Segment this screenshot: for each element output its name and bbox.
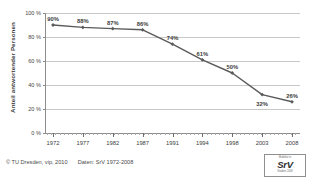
plot-area: 0 %20 %40 %60 %80 %100 % 197219771982198… xyxy=(45,13,300,133)
x-tick-minor xyxy=(76,133,77,135)
x-tick-minor xyxy=(89,133,90,135)
x-tick-minor xyxy=(72,133,73,135)
x-tick-label: 1994 xyxy=(196,140,209,146)
x-tick-minor xyxy=(118,133,119,135)
srv-logo: Mobilität in SrV Städten 2008 xyxy=(264,154,306,177)
x-tick-minor xyxy=(244,133,245,135)
x-tick-minor xyxy=(102,133,103,135)
x-tick-minor xyxy=(253,133,254,135)
x-tick-minor xyxy=(186,133,187,135)
x-tick-minor xyxy=(181,133,182,135)
y-tick-label: 20 % xyxy=(28,106,41,112)
x-tick-major xyxy=(173,133,174,137)
x-tick-label: 1987 xyxy=(136,140,149,146)
x-tick-minor xyxy=(93,133,94,135)
x-tick-minor xyxy=(223,133,224,135)
x-tick-minor xyxy=(81,133,82,135)
data-point-label: 32% xyxy=(256,101,268,107)
x-tick-minor xyxy=(257,133,258,135)
x-tick-minor xyxy=(144,133,145,135)
x-tick-major xyxy=(262,133,263,137)
data-point-marker xyxy=(290,100,294,104)
x-tick-minor xyxy=(278,133,279,135)
x-tick-minor xyxy=(286,133,287,135)
x-tick-minor xyxy=(177,133,178,135)
data-series-line xyxy=(45,13,300,133)
x-tick-label: 2008 xyxy=(286,140,299,146)
data-point-label: 88% xyxy=(77,18,89,24)
footer-note: © TU Dresden, vip, 2010 Daten: SrV 1972-… xyxy=(6,159,133,165)
data-point-label: 87% xyxy=(107,20,119,26)
data-point-marker xyxy=(81,26,85,30)
x-tick-minor xyxy=(274,133,275,135)
x-tick-label: 1991 xyxy=(166,140,179,146)
x-tick-minor xyxy=(194,133,195,135)
x-tick-minor xyxy=(135,133,136,135)
srv-logo-main-text: SrV xyxy=(265,160,305,170)
x-tick-minor xyxy=(123,133,124,135)
y-tick-label: 100 % xyxy=(25,10,41,16)
x-tick-label: 1977 xyxy=(76,140,89,146)
y-tick-label: 0 % xyxy=(31,130,41,136)
y-tick-label: 40 % xyxy=(28,82,41,88)
x-tick-minor xyxy=(282,133,283,135)
data-point-label: 61% xyxy=(197,51,209,57)
footer-source: Daten: SrV 1972-2008 xyxy=(78,159,134,165)
x-tick-minor xyxy=(114,133,115,135)
data-point-label: 74% xyxy=(167,35,179,41)
x-tick-minor xyxy=(219,133,220,135)
y-tick-label: 60 % xyxy=(28,58,41,64)
x-tick-minor xyxy=(47,133,48,135)
data-point-label: 50% xyxy=(226,64,238,70)
x-tick-minor xyxy=(156,133,157,135)
chart-figure: Anteil antwortender Personen 0 %20 %40 %… xyxy=(0,0,310,179)
x-tick-minor xyxy=(198,133,199,135)
x-tick-label: 2003 xyxy=(256,140,269,146)
footer-copyright: © TU Dresden, vip, 2010 xyxy=(6,159,68,165)
x-tick-minor xyxy=(85,133,86,135)
x-tick-major xyxy=(292,133,293,137)
x-tick-minor xyxy=(240,133,241,135)
x-tick-label: 1982 xyxy=(106,140,119,146)
x-tick-major xyxy=(53,133,54,137)
y-tick-label: 80 % xyxy=(28,34,41,40)
x-tick-minor xyxy=(106,133,107,135)
x-tick-minor xyxy=(160,133,161,135)
x-tick-minor xyxy=(165,133,166,135)
y-tick-mark xyxy=(43,133,46,134)
x-tick-major xyxy=(232,133,233,137)
x-tick-minor xyxy=(64,133,65,135)
x-tick-minor xyxy=(97,133,98,135)
data-point-marker xyxy=(111,27,115,31)
x-tick-minor xyxy=(148,133,149,135)
x-tick-minor xyxy=(139,133,140,135)
x-tick-minor xyxy=(249,133,250,135)
x-tick-minor xyxy=(110,133,111,135)
x-tick-minor xyxy=(228,133,229,135)
x-tick-minor xyxy=(190,133,191,135)
x-tick-minor xyxy=(127,133,128,135)
y-axis-title: Anteil antwortender Personen xyxy=(9,8,16,128)
x-tick-label: 1972 xyxy=(47,140,60,146)
data-point-label: 90% xyxy=(47,16,59,22)
x-tick-label: 1998 xyxy=(226,140,239,146)
x-tick-major xyxy=(202,133,203,137)
x-tick-major xyxy=(83,133,84,137)
x-tick-minor xyxy=(215,133,216,135)
x-tick-minor xyxy=(207,133,208,135)
x-tick-minor xyxy=(211,133,212,135)
x-tick-minor xyxy=(152,133,153,135)
data-point-marker xyxy=(51,23,55,27)
x-tick-minor xyxy=(236,133,237,135)
x-tick-minor xyxy=(68,133,69,135)
x-tick-minor xyxy=(265,133,266,135)
x-tick-major xyxy=(143,133,144,137)
x-tick-minor xyxy=(270,133,271,135)
x-tick-major xyxy=(113,133,114,137)
x-tick-minor xyxy=(60,133,61,135)
data-point-label: 86% xyxy=(137,21,149,27)
x-tick-minor xyxy=(169,133,170,135)
srv-logo-bottom-text: Städten 2008 xyxy=(265,170,305,174)
x-tick-minor xyxy=(295,133,296,135)
x-tick-minor xyxy=(131,133,132,135)
